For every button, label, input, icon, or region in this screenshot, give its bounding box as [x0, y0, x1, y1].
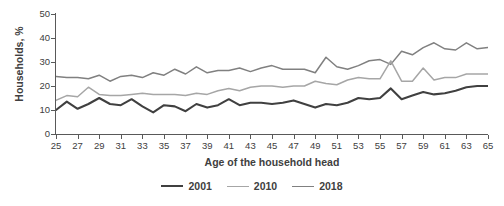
y-tick-label: 40 — [4, 33, 50, 43]
x-tick-mark — [294, 135, 295, 139]
x-tick-mark — [315, 135, 316, 139]
legend-line-swatch — [227, 186, 249, 187]
y-tick-label: 20 — [4, 81, 50, 91]
x-tick-mark — [56, 135, 57, 139]
x-tick-label: 53 — [348, 140, 368, 151]
x-tick-label: 31 — [111, 140, 131, 151]
x-tick-mark — [78, 135, 79, 139]
legend-line-swatch — [161, 185, 183, 187]
series-line-2018 — [56, 43, 488, 81]
x-tick-label: 47 — [284, 140, 304, 151]
x-tick-mark — [250, 135, 251, 139]
x-tick-label: 39 — [197, 140, 217, 151]
x-tick-mark — [402, 135, 403, 139]
x-tick-mark — [466, 135, 467, 139]
chart-title-cropped — [0, 0, 504, 5]
x-tick-label: 33 — [132, 140, 152, 151]
y-tick-label: 10 — [4, 105, 50, 115]
series-line-2001 — [56, 86, 488, 112]
x-tick-label: 37 — [176, 140, 196, 151]
x-tick-label: 55 — [370, 140, 390, 151]
x-tick-mark — [186, 135, 187, 139]
x-tick-label: 41 — [219, 140, 239, 151]
y-tick-mark — [51, 86, 55, 87]
x-tick-mark — [423, 135, 424, 139]
y-tick-label: 50 — [4, 9, 50, 19]
series-line-2010 — [56, 61, 488, 101]
legend-label: 2010 — [254, 180, 277, 192]
x-tick-mark — [142, 135, 143, 139]
x-tick-label: 61 — [435, 140, 455, 151]
plot-area — [56, 14, 488, 134]
legend-label: 2018 — [319, 180, 342, 192]
y-tick-mark — [51, 38, 55, 39]
x-tick-mark — [445, 135, 446, 139]
x-tick-label: 51 — [327, 140, 347, 151]
x-tick-label: 35 — [154, 140, 174, 151]
chart-figure: Households, % 01020304050 25272931333537… — [0, 0, 504, 206]
chart-legend: 200120102018 — [0, 180, 504, 192]
legend-line-swatch — [292, 186, 314, 187]
legend-item-2010[interactable]: 2010 — [227, 180, 277, 192]
legend-item-2018[interactable]: 2018 — [292, 180, 342, 192]
legend-item-2001[interactable]: 2001 — [161, 180, 211, 192]
x-tick-label: 43 — [240, 140, 260, 151]
x-tick-mark — [488, 135, 489, 139]
y-tick-mark — [51, 110, 55, 111]
y-tick-mark — [51, 14, 55, 15]
x-tick-mark — [380, 135, 381, 139]
legend-label: 2001 — [188, 180, 211, 192]
x-axis-title: Age of the household head — [56, 156, 488, 168]
x-tick-mark — [337, 135, 338, 139]
x-tick-mark — [358, 135, 359, 139]
x-tick-label: 45 — [262, 140, 282, 151]
series-lines — [56, 14, 488, 134]
y-tick-mark — [51, 134, 55, 135]
x-tick-label: 27 — [68, 140, 88, 151]
x-tick-mark — [99, 135, 100, 139]
y-tick-label: 30 — [4, 57, 50, 67]
x-tick-label: 59 — [413, 140, 433, 151]
x-tick-mark — [207, 135, 208, 139]
x-tick-mark — [272, 135, 273, 139]
y-axis-tick-labels: 01020304050 — [0, 0, 50, 206]
x-tick-label: 65 — [478, 140, 498, 151]
y-tick-mark — [51, 62, 55, 63]
x-tick-label: 29 — [89, 140, 109, 151]
x-tick-mark — [121, 135, 122, 139]
x-tick-label: 57 — [392, 140, 412, 151]
x-tick-label: 49 — [305, 140, 325, 151]
x-tick-mark — [164, 135, 165, 139]
x-tick-label: 25 — [46, 140, 66, 151]
y-tick-label: 0 — [4, 129, 50, 139]
x-tick-label: 63 — [456, 140, 476, 151]
x-tick-mark — [229, 135, 230, 139]
